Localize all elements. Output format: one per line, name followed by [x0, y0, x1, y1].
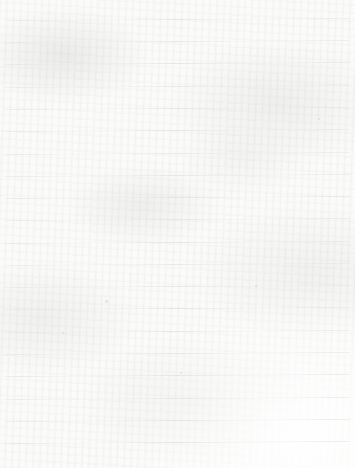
- rule-line: [4, 129, 350, 132]
- rule-line: [4, 397, 350, 400]
- rule-line: [4, 196, 350, 199]
- rule-line: [4, 330, 350, 333]
- rule-line: [4, 40, 350, 43]
- rule-line: [4, 441, 350, 444]
- rule-line: [4, 263, 350, 266]
- rule-line: [4, 218, 350, 221]
- paper-page: [0, 0, 355, 468]
- rule-line: [4, 85, 350, 88]
- rule-line: [4, 374, 350, 377]
- rule-line: [4, 62, 350, 65]
- rule-line: [4, 152, 350, 155]
- rule-line: [4, 285, 350, 288]
- rule-line: [4, 174, 350, 177]
- rule-line: [4, 352, 350, 355]
- rule-line: [4, 18, 350, 21]
- ruled-lines: [0, 0, 355, 468]
- rule-line: [4, 419, 350, 422]
- rule-line: [4, 107, 350, 110]
- rule-line: [4, 307, 350, 310]
- rule-line: [4, 241, 350, 244]
